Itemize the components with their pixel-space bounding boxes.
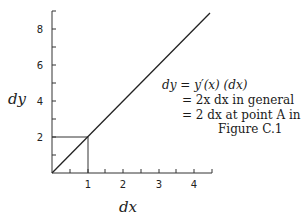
ytick-6: 6 <box>37 60 43 71</box>
derivative-chart: 2 4 6 8 1 2 3 4 dy dx dy = y′(x) (dx) = … <box>0 0 303 215</box>
xtick-1: 1 <box>85 179 91 190</box>
y-ticks <box>52 29 56 155</box>
x-ticks <box>70 169 194 173</box>
ytick-4: 4 <box>37 96 43 107</box>
ytick-8: 8 <box>37 24 43 35</box>
equation-line-2: = 2x dx in general <box>182 94 294 107</box>
equation-line-1: dy = y′(x) (dx) <box>162 79 247 92</box>
x-axis-label: dx <box>119 198 138 215</box>
xtick-2: 2 <box>120 179 126 190</box>
equation-line-4: Figure C.1 <box>218 123 282 136</box>
xtick-3: 3 <box>156 179 162 190</box>
equation-line-3: = 2 dx at point A in <box>182 109 301 122</box>
xtick-4: 4 <box>191 179 197 190</box>
y-axis-label: dy <box>8 90 27 108</box>
ytick-2: 2 <box>37 132 43 143</box>
